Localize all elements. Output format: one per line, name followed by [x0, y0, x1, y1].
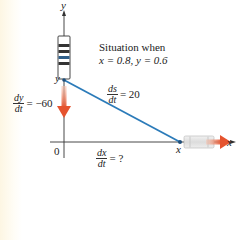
ds-dt-label: ds dt = 20	[107, 84, 140, 105]
y-point	[62, 78, 66, 82]
dx-dt-value: = ?	[109, 153, 123, 164]
dx-dt-fraction: dx dt	[96, 148, 107, 169]
situation-line-1: Situation when	[99, 42, 168, 53]
dy-dt-value: = −60	[26, 98, 52, 109]
situation-title: Situation when x = 0.8, y = 0.6	[99, 42, 168, 66]
ds-dt-value: = 20	[120, 89, 140, 100]
situation-line-2: x = 0.8, y = 0.6	[99, 55, 168, 66]
origin-label: 0	[54, 146, 60, 157]
dx-dt-denominator: dt	[98, 159, 106, 169]
dy-dt-fraction: dy dt	[13, 93, 24, 114]
x-point-label: x	[176, 144, 181, 155]
ds-dt-fraction: ds dt	[107, 84, 118, 105]
dy-dt-label: dy dt = −60	[13, 93, 53, 114]
down-arrow-icon	[57, 86, 71, 118]
y-axis-label: y	[61, 0, 66, 11]
x-axis-label: x	[227, 137, 232, 148]
ds-dt-denominator: dt	[109, 95, 117, 105]
dy-dt-denominator: dt	[15, 104, 23, 114]
y-axis	[62, 10, 66, 158]
dx-dt-label: dx dt = ?	[96, 148, 123, 169]
y-point-label: y	[55, 73, 60, 84]
